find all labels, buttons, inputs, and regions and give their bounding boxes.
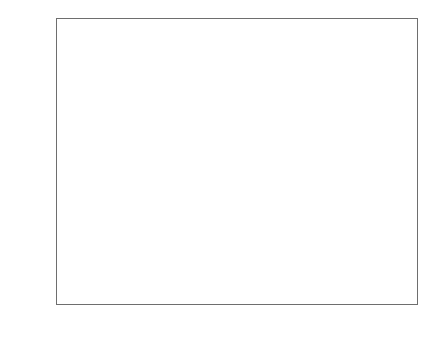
fit-lines [57,19,419,306]
normal-probability-plot [0,0,439,347]
plot-frame [56,18,418,305]
